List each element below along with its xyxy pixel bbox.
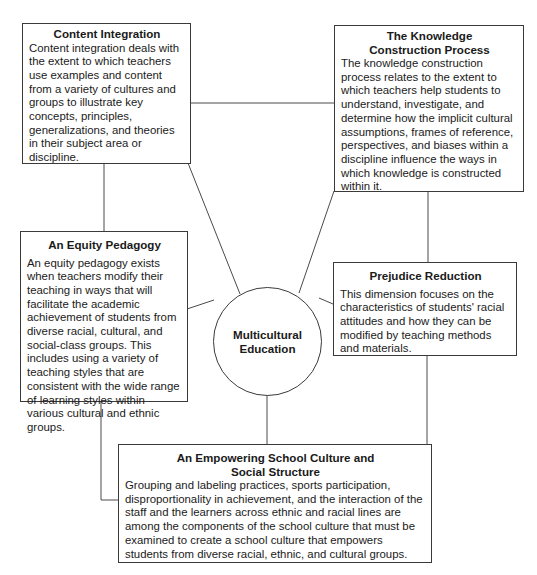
- node-knowledge-construction: The Knowledge Construction Process The k…: [334, 25, 524, 192]
- node-body: The knowledge construction process relat…: [341, 57, 518, 194]
- node-title: The Knowledge Construction Process: [341, 29, 518, 56]
- center-label-line2: Education: [233, 342, 302, 356]
- node-content-integration: Content Integration Content integration …: [22, 23, 191, 164]
- center-label-line1: Multicultural: [233, 328, 302, 342]
- node-body: Content integration deals with the exten…: [29, 42, 185, 165]
- center-node-multicultural-education: Multicultural Education: [213, 287, 322, 396]
- node-prejudice-reduction: Prejudice Reduction This dimension focus…: [333, 262, 517, 356]
- node-title: An Empowering School Culture and Social …: [125, 451, 426, 478]
- node-title: An Equity Pedagogy: [27, 238, 182, 252]
- node-empowering-school-culture: An Empowering School Culture and Social …: [118, 444, 432, 563]
- node-title: Prejudice Reduction: [340, 269, 511, 283]
- node-body: An equity pedagogy exists when teachers …: [27, 257, 182, 435]
- node-equity-pedagogy: An Equity Pedagogy An equity pedagogy ex…: [20, 231, 188, 402]
- node-title: Content Integration: [29, 27, 185, 41]
- node-body: This dimension focuses on the characteri…: [340, 288, 511, 357]
- node-body: Grouping and labeling practices, sports …: [125, 479, 426, 561]
